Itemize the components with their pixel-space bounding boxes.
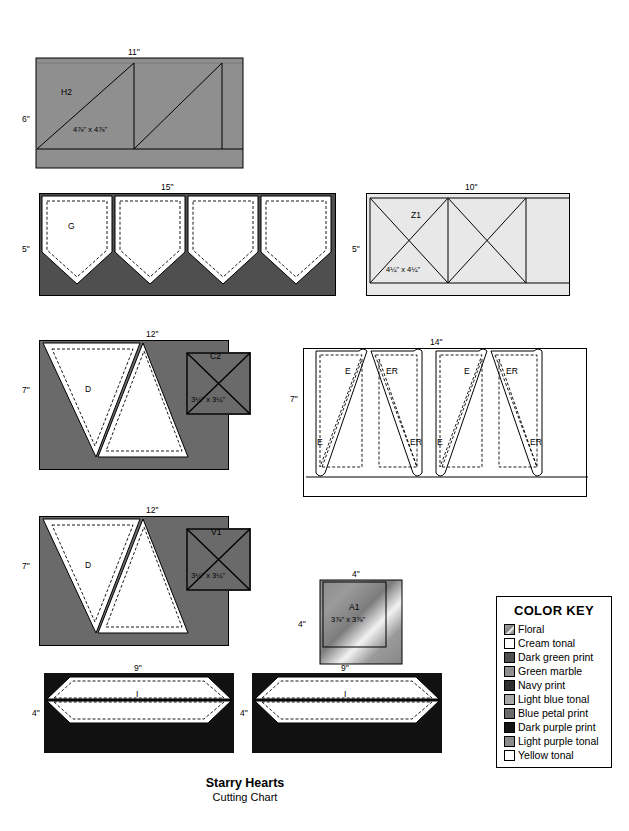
color-key-item-cream-tonal: Cream tonal (504, 637, 611, 650)
i2-piece-label: I (344, 690, 346, 699)
block-g (39, 193, 336, 296)
block-i2 (252, 673, 442, 753)
d2-piece-label: D (85, 561, 91, 570)
chart-title-main: Starry Hearts (0, 776, 490, 790)
color-key-item-floral: Floral (504, 623, 611, 636)
e-col1-bottom-label: E (317, 438, 323, 447)
e-col2-top-label: ER (386, 367, 398, 376)
color-key-item-blue-petal-print: Blue petal print (504, 707, 611, 720)
c2-cut-lines (186, 352, 251, 415)
a1-height-dim: 4" (298, 620, 306, 629)
color-key-label: Yellow tonal (518, 750, 574, 761)
swatch-light-purple-tonal-icon (504, 736, 515, 747)
swatch-blue-petal-print-icon (504, 708, 515, 719)
color-key-label: Light blue tonal (518, 694, 589, 705)
i1-height-dim: 4" (32, 709, 40, 718)
i1-cut-lines (44, 673, 234, 753)
g-piece-label: G (68, 222, 75, 231)
block-v1 (186, 528, 251, 591)
color-key-item-light-purple-tonal: Light purple tonal (504, 735, 611, 748)
color-key-label: Dark green print (518, 652, 593, 663)
e-col4-top-label: ER (506, 367, 518, 376)
color-key-panel: COLOR KEY Floral Cream tonal Dark green … (496, 596, 612, 768)
color-key-label: Navy print (518, 680, 565, 691)
color-key-label: Cream tonal (518, 638, 575, 649)
e-col4-bottom-label: ER (530, 438, 542, 447)
color-key-label: Blue petal print (518, 708, 588, 719)
i1-piece-label: I (136, 690, 138, 699)
d2-width-dim: 12" (146, 506, 158, 515)
a1-piece-label: A1 (349, 603, 359, 612)
e-col3-bottom-label: E (437, 438, 443, 447)
cutting-chart-page: 11" 6" H2 4⅞" x 4⅞" 15" 5" (0, 0, 629, 831)
swatch-navy-print-icon (504, 680, 515, 691)
z1-cut-size: 4¼" x 4¼" (386, 266, 420, 274)
swatch-cream-tonal-icon (504, 638, 515, 649)
color-key-label: Light purple tonal (518, 736, 599, 747)
color-key-title: COLOR KEY (497, 603, 611, 618)
a1-cut-size: 3⅞" x 3⅞" (331, 616, 365, 624)
e-col1-top-label: E (345, 367, 351, 376)
i2-cut-lines (252, 673, 442, 753)
e-height-dim: 7" (290, 395, 298, 404)
i2-width-dim: 9" (341, 664, 349, 673)
a1-width-dim: 4" (352, 570, 360, 579)
swatch-green-marble-icon (504, 666, 515, 677)
g-cut-lines (40, 194, 337, 297)
h2-cut-lines (36, 58, 243, 168)
v1-cut-size: 3¼" x 3¼" (191, 572, 225, 580)
swatch-yellow-tonal-icon (504, 750, 515, 761)
color-key-item-green-marble: Green marble (504, 665, 611, 678)
e-col2-bottom-label: ER (410, 438, 422, 447)
h2-piece-label: H2 (61, 88, 72, 97)
e-col3-top-label: E (464, 367, 470, 376)
h2-width-dim: 11" (128, 48, 140, 57)
v1-piece-label: V1 (211, 528, 221, 537)
h2-height-dim: 6" (22, 115, 30, 124)
swatch-floral-icon (504, 624, 515, 635)
d1-piece-label: D (85, 385, 91, 394)
g-width-dim: 15" (161, 183, 173, 192)
d2-height-dim: 7" (22, 562, 30, 571)
d1-height-dim: 7" (22, 386, 30, 395)
z1-cut-lines (367, 194, 569, 295)
v1-cut-lines (186, 528, 251, 591)
i1-width-dim: 9" (134, 664, 142, 673)
block-z1 (366, 193, 570, 296)
chart-title-sub: Cutting Chart (0, 791, 490, 803)
i2-height-dim: 4" (240, 709, 248, 718)
color-key-item-light-blue-tonal: Light blue tonal (504, 693, 611, 706)
z1-height-dim: 5" (352, 245, 360, 254)
c2-piece-label: C2 (210, 352, 221, 361)
h2-cut-size: 4⅞" x 4⅞" (73, 126, 107, 134)
block-i1 (44, 673, 234, 753)
swatch-dark-green-print-icon (504, 652, 515, 663)
g-height-dim: 5" (22, 245, 30, 254)
c2-cut-size: 3¼" x 3¼" (191, 396, 225, 404)
z1-piece-label: Z1 (411, 211, 421, 220)
block-h2 (36, 58, 243, 168)
color-key-label: Dark purple print (518, 722, 596, 733)
e-width-dim: 14" (430, 338, 442, 347)
block-c2 (186, 352, 251, 415)
color-key-label: Green marble (518, 666, 582, 677)
color-key-label: Floral (518, 624, 544, 635)
chart-title: Starry Hearts Cutting Chart (0, 776, 490, 803)
swatch-light-blue-tonal-icon (504, 694, 515, 705)
d1-width-dim: 12" (146, 330, 158, 339)
color-key-item-yellow-tonal: Yellow tonal (504, 749, 611, 762)
color-key-item-dark-green-print: Dark green print (504, 651, 611, 664)
swatch-dark-purple-print-icon (504, 722, 515, 733)
z1-width-dim: 10" (465, 183, 477, 192)
color-key-item-dark-purple-print: Dark purple print (504, 721, 611, 734)
color-key-item-navy-print: Navy print (504, 679, 611, 692)
